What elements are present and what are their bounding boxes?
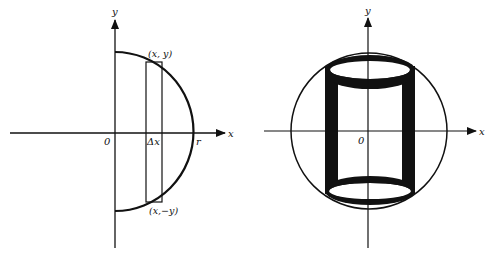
cylinder-inner-hollow [338,79,402,181]
semicircle-arc [115,52,193,211]
radius-label: r [196,136,202,147]
strip-width-label: Δx [146,136,160,147]
left-figure: y x 0 Δx r (x, y) (x,−y) [10,6,234,248]
right-origin-label: 0 [358,135,365,146]
top-point-label: (x, y) [148,48,172,59]
bottom-point-label: (x,−y) [149,205,178,216]
right-figure: y x 0 [264,5,485,248]
cylinder-left-wall [325,66,338,194]
cylinder-top-inner-ellipse [330,61,410,79]
diagram-canvas: y x 0 Δx r (x, y) (x,−y) y x 0 [0,0,486,255]
left-y-axis-label: y [111,6,118,17]
left-origin-label: 0 [104,136,111,147]
right-y-axis-label: y [364,5,371,16]
right-x-axis-label: x [479,126,485,137]
vertical-strip-rectangle [146,62,162,202]
cylinder-right-wall [402,66,415,194]
left-x-axis-label: x [228,128,234,139]
cylinder-bottom-inner-ellipse [329,183,411,199]
